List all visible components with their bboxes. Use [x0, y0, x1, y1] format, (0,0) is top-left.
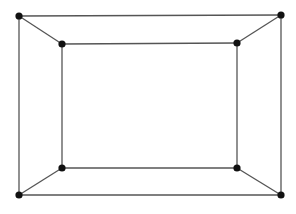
- node-inner-top-right: [233, 39, 240, 46]
- edge-inner-top-left-to-inner-top-right: [62, 43, 237, 44]
- edge-outer-top-left-to-outer-top-right: [19, 15, 281, 16]
- edge-outer-bottom-left-to-inner-bottom-left: [19, 168, 62, 195]
- node-outer-top-left: [15, 12, 22, 19]
- node-inner-bottom-right: [233, 164, 240, 171]
- node-outer-top-right: [277, 11, 284, 18]
- edges-layer: [19, 15, 281, 195]
- node-inner-bottom-left: [58, 164, 65, 171]
- edge-outer-bottom-right-to-inner-bottom-right: [237, 168, 281, 195]
- node-outer-bottom-right: [277, 191, 284, 198]
- node-outer-bottom-left: [15, 191, 22, 198]
- cube-graph-diagram: [0, 0, 296, 214]
- edge-outer-top-right-to-inner-top-right: [237, 15, 281, 43]
- node-inner-top-left: [58, 40, 65, 47]
- edge-outer-top-left-to-inner-top-left: [19, 16, 62, 44]
